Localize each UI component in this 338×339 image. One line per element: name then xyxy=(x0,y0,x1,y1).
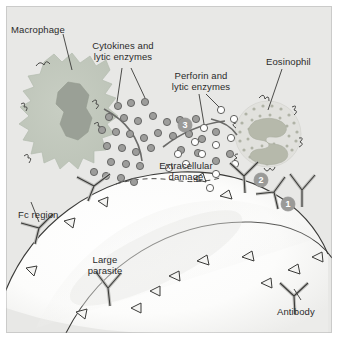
step-badge-1: 1 xyxy=(281,197,295,211)
diagram-panel: Macrophage Cytokines and lytic enzymes P… xyxy=(6,6,332,333)
label-extracellular-line2: damage xyxy=(146,171,226,182)
label-perforin-line2: lytic enzymes xyxy=(166,81,236,92)
step-badge-3: 3 xyxy=(178,118,192,132)
label-large-parasite-line2: parasite xyxy=(78,265,132,276)
label-antibody: Antibody xyxy=(277,306,315,317)
label-eosinophil: Eosinophil xyxy=(266,56,311,67)
label-macrophage: Macrophage xyxy=(11,24,65,35)
eosinophil-cell-upper xyxy=(233,95,302,171)
label-extracellular-line1: Extracellular xyxy=(146,160,226,171)
label-cytokines-line2: lytic enzymes xyxy=(84,51,162,62)
figure-root: Macrophage Cytokines and lytic enzymes P… xyxy=(0,0,338,339)
step-badge-2: 2 xyxy=(254,173,268,187)
label-large-parasite-line1: Large xyxy=(78,254,132,265)
label-fc-region: Fc region xyxy=(18,209,59,220)
label-cytokines-line1: Cytokines and xyxy=(84,40,162,51)
label-perforin-line1: Perforin and xyxy=(166,70,236,81)
macrophage-cell xyxy=(19,53,118,169)
